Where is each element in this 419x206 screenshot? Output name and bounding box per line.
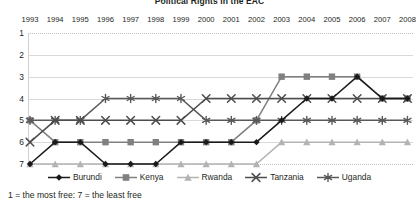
x-tick-label-2000: 2000: [198, 14, 215, 26]
legend-label: Burundi: [73, 172, 102, 182]
y-tick-label-2: 2: [19, 50, 24, 60]
series-layer: [28, 33, 413, 164]
legend-item-uganda[interactable]: Uganda: [317, 172, 371, 183]
x-tick-label-2002: 2002: [248, 14, 265, 26]
legend-item-kenya[interactable]: Kenya: [115, 172, 164, 183]
chart-title: Political Rights in the EAC: [0, 0, 419, 7]
legend-label: Rwanda: [202, 172, 233, 182]
y-axis-tick-labels: 1234567: [8, 33, 26, 164]
x-tick-label-1996: 1996: [97, 14, 114, 26]
x-tick-label-1993: 1993: [22, 14, 39, 26]
x-tick-label-2001: 2001: [223, 14, 240, 26]
legend-label: Tanzania: [270, 172, 304, 182]
legend-item-rwanda[interactable]: Rwanda: [177, 172, 233, 183]
legend-marker-x-icon: [245, 172, 267, 183]
legend-label: Kenya: [140, 172, 164, 182]
x-tick-label-1995: 1995: [72, 14, 89, 26]
legend-marker-triangle-icon: [177, 172, 199, 183]
x-tick-label-1999: 1999: [173, 14, 190, 26]
chart-footnote: 1 = the most free: 7 = the least free: [8, 190, 142, 200]
x-tick-label-2006: 2006: [349, 14, 366, 26]
x-tick-label-2005: 2005: [324, 14, 341, 26]
y-tick-label-1: 1: [19, 28, 24, 38]
x-tick-label-1994: 1994: [47, 14, 64, 26]
x-tick-label-2003: 2003: [273, 14, 290, 26]
x-tick-label-1997: 1997: [122, 14, 139, 26]
chart-container: Political Rights in the EAC 199319941995…: [0, 0, 419, 206]
series-kenya: [27, 73, 411, 145]
x-tick-label-1998: 1998: [147, 14, 164, 26]
y-tick-label-5: 5: [19, 115, 24, 125]
y-tick-label-3: 3: [19, 72, 24, 82]
chart-legend: BurundiKenyaRwandaTanzaniaUganda: [0, 170, 419, 184]
y-tick-label-6: 6: [19, 137, 24, 147]
legend-marker-square-icon: [115, 172, 137, 183]
y-tick-label-4: 4: [19, 94, 24, 104]
y-tick-label-7: 7: [19, 159, 24, 169]
legend-marker-diamond-icon: [48, 172, 70, 183]
legend-marker-asterisk-icon: [317, 172, 339, 183]
legend-item-tanzania[interactable]: Tanzania: [245, 172, 304, 183]
legend-item-burundi[interactable]: Burundi: [48, 172, 102, 183]
x-axis-tick-labels: 1993199419951996199719981999200020012002…: [28, 14, 413, 26]
x-tick-label-2007: 2007: [374, 14, 391, 26]
plot-area: [28, 33, 413, 164]
x-tick-label-2004: 2004: [298, 14, 315, 26]
x-tick-label-2008: 2008: [399, 14, 416, 26]
legend-label: Uganda: [342, 172, 371, 182]
